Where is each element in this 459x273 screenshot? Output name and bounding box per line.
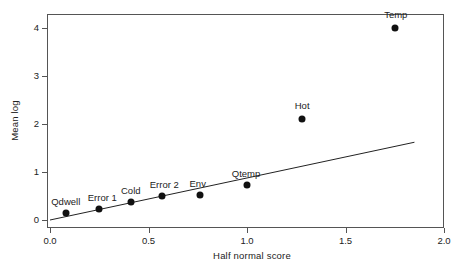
y-tick-mark <box>42 220 47 221</box>
y-tick-label: 3 <box>34 71 39 81</box>
half-normal-plot-figure: Mean log 012340.00.51.01.52.0 QdwellErro… <box>0 0 459 273</box>
x-axis-title: Half normal score <box>0 250 459 261</box>
x-tick-mark <box>149 228 150 233</box>
x-tick-label: 0.0 <box>43 236 56 246</box>
y-axis-title: Mean log <box>6 0 22 273</box>
y-tick-label: 0 <box>34 215 39 225</box>
x-axis-title-text: Half normal score <box>213 250 291 261</box>
x-tick-mark <box>346 228 347 233</box>
y-tick-label: 2 <box>34 119 39 129</box>
y-tick-mark <box>42 28 47 29</box>
x-tick-label: 1.5 <box>339 236 352 246</box>
x-tick-mark <box>444 228 445 233</box>
x-tick-label: 0.5 <box>142 236 155 246</box>
y-tick-label: 4 <box>34 23 39 33</box>
y-tick-mark <box>42 76 47 77</box>
x-tick-mark <box>247 228 248 233</box>
y-tick-mark <box>42 172 47 173</box>
y-tick-mark <box>42 124 47 125</box>
x-tick-label: 1.0 <box>240 236 253 246</box>
x-tick-label: 2.0 <box>437 236 450 246</box>
plot-area <box>47 14 444 228</box>
x-tick-mark <box>50 228 51 233</box>
y-tick-label: 1 <box>34 167 39 177</box>
y-axis-title-text: Mean log <box>9 100 20 141</box>
